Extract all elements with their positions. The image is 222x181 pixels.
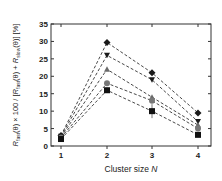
x-axis-title: Cluster size N [105, 164, 159, 174]
circle-marker-icon [149, 98, 155, 104]
square-marker-icon [58, 136, 64, 142]
circle-marker-icon [104, 80, 110, 86]
triangle-down-marker-icon [104, 53, 110, 59]
x-tick-label: 3 [150, 151, 155, 160]
triangle-up-marker-icon [104, 66, 110, 72]
y-tick-label: 35 [39, 20, 48, 29]
y-tick-label: 20 [39, 72, 48, 81]
series-line [61, 42, 198, 135]
y-tick-label: 15 [39, 90, 48, 99]
x-tick-label: 1 [59, 151, 64, 160]
square-marker-icon [149, 108, 155, 114]
circle-marker-icon [195, 126, 201, 132]
plot-frame [51, 24, 211, 146]
y-tick-label: 30 [39, 37, 48, 46]
square-marker-icon [195, 132, 201, 138]
y-axis-title: Rfast(θ) × 100 / [Rfast(θ) + Rslow(θ)] [… [11, 24, 21, 147]
y-tick-label: 5 [44, 125, 49, 134]
y-tick-label: 25 [39, 55, 48, 64]
y-tick-label: 0 [44, 142, 49, 151]
line-chart: 05101520253035 1234 Cluster size N Rfast… [0, 0, 222, 181]
square-marker-icon [104, 87, 110, 93]
y-tick-label: 10 [39, 107, 48, 116]
series-down-triangle [58, 53, 201, 139]
series-line [61, 90, 198, 139]
x-tick-label: 2 [105, 151, 110, 160]
series-line [61, 83, 198, 137]
series-layer [58, 39, 202, 142]
series-square [58, 87, 201, 142]
x-tick-label: 4 [196, 151, 201, 160]
series-diamond [58, 39, 202, 139]
series-line [61, 69, 198, 137]
series-up-triangle [58, 66, 201, 139]
diamond-marker-icon [104, 39, 111, 46]
